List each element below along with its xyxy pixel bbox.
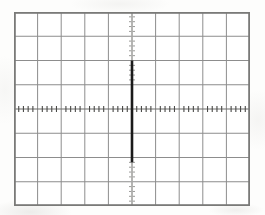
graticule-svg bbox=[14, 12, 250, 206]
oscilloscope-figure: Oscilloscope display bbox=[0, 0, 265, 215]
graticule-screen bbox=[14, 12, 250, 206]
